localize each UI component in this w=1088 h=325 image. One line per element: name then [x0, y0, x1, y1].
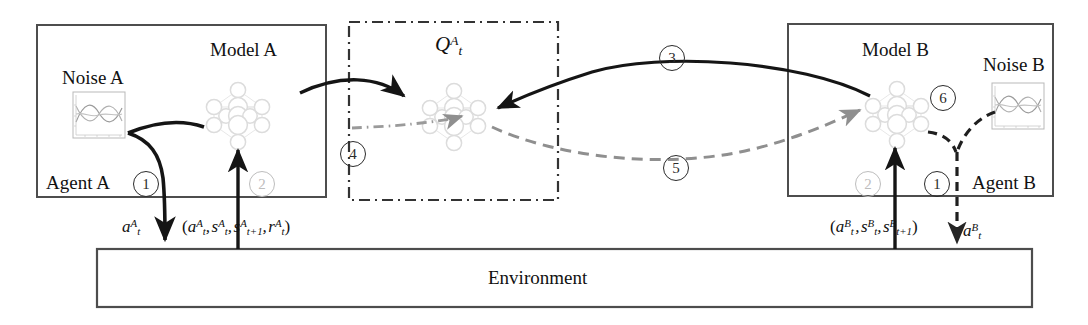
agent-b-action-label: aBt [963, 222, 981, 241]
step-badge-a-2[interactable]: 2 [249, 171, 275, 197]
shared-q-title: QAt [435, 34, 462, 58]
arrow-6-model-b-to-noise-b [928, 132, 956, 152]
step-badge-5[interactable]: 5 [663, 155, 689, 181]
model-a-network [206, 82, 269, 149]
step-badge-b-1[interactable]: 1 [924, 171, 950, 197]
step-badge-b-6[interactable]: 6 [930, 85, 956, 111]
noise-a-thumbnail [73, 92, 125, 138]
environment-label: Environment [488, 268, 587, 287]
step-badge-3[interactable]: 3 [659, 45, 685, 71]
model-a-title: Model A [210, 40, 277, 59]
step-badge-4[interactable]: 4 [340, 141, 366, 167]
arrow-noise-b-to-junction [957, 112, 995, 152]
noise-a-title: Noise A [62, 68, 124, 87]
agent-a-experience-tuple: (aAt, sAt, sAt+1, rAt) [182, 218, 290, 237]
diagram-canvas: Model A Noise A Agent A 1 2 aAt (aAt, sA… [0, 0, 1088, 325]
step-badge-a-1[interactable]: 1 [133, 171, 159, 197]
agent-b-experience-tuple: (aBt , sBt, sBt+1) [830, 218, 918, 237]
step-badge-b-2[interactable]: 2 [855, 171, 881, 197]
arrow-3-model-b-to-q [498, 61, 870, 108]
arrow-model-a-to-q [300, 80, 404, 96]
model-b-network [865, 81, 928, 148]
noise-b-thumbnail [992, 83, 1044, 129]
noise-b-title: Noise B [983, 55, 1045, 74]
agent-b-label: Agent B [972, 173, 1036, 192]
model-b-title: Model B [862, 40, 929, 59]
arrow-a-noise-to-model [128, 123, 204, 133]
arrow-5-q-to-model-b [492, 110, 860, 160]
agent-a-action-label: aAt [122, 218, 140, 237]
agent-a-label: Agent A [46, 173, 110, 192]
